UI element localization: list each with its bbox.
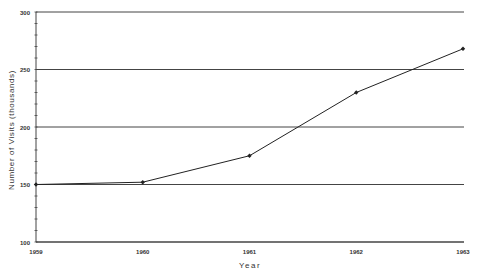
y-tick-label: 250 <box>20 67 31 73</box>
data-series <box>34 47 465 187</box>
x-axis: 19591960196119621963 <box>29 249 470 255</box>
x-tick-label: 1960 <box>136 249 150 255</box>
y-tick-label: 200 <box>20 125 31 131</box>
y-tick-label: 300 <box>20 10 31 16</box>
horizontal-gridlines <box>36 12 464 242</box>
y-axis-title: Number of Visits (thousands) <box>7 70 16 190</box>
y-axis: 100150200250300 <box>20 10 38 246</box>
x-tick-label: 1962 <box>350 249 364 255</box>
data-point-marker <box>247 154 251 158</box>
data-point-marker <box>461 47 465 51</box>
x-tick-label: 1961 <box>243 249 257 255</box>
y-tick-label: 150 <box>20 182 31 188</box>
x-tick-label: 1963 <box>456 249 470 255</box>
data-point-marker <box>141 180 145 184</box>
x-axis-title: Year <box>239 261 261 270</box>
y-tick-label: 100 <box>20 240 31 246</box>
data-point-marker <box>354 90 358 94</box>
line-chart: 100150200250300 19591960196119621963 <box>0 0 478 277</box>
data-point-marker <box>34 182 38 186</box>
x-tick-label: 1959 <box>29 249 43 255</box>
